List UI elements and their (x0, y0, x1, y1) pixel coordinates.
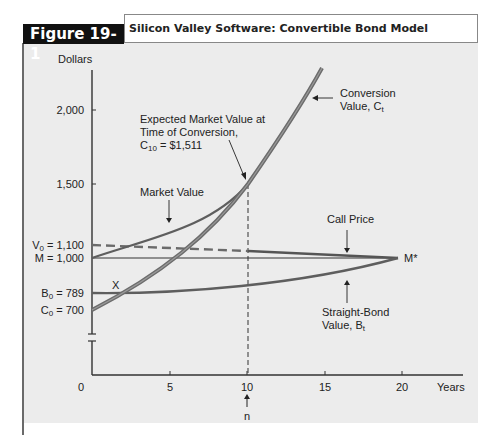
expected-label-line3: C10 = $1,511 (140, 139, 202, 153)
market-value-arrow-icon (166, 200, 172, 223)
y-label-m: M = 1,000 (35, 252, 84, 264)
y-tick-1500: 1,500 (56, 178, 84, 190)
market-value-label: Market Value (140, 186, 204, 198)
x-tick-0: 0 (78, 381, 84, 393)
x-tick-10: 10 (241, 381, 253, 393)
straight-bond-line (92, 258, 398, 293)
axis-break-icon (88, 334, 96, 341)
straight-bond-arrow-icon (344, 280, 350, 303)
conversion-label-line1: Conversion (340, 87, 396, 99)
n-label: n (244, 410, 250, 422)
convertible-bond-chart: Dollars Years 2,000 1,500 V0 = 1,100 M =… (0, 0, 493, 445)
conversion-arrow-icon (312, 95, 333, 101)
call-price-arrow-icon (344, 230, 350, 253)
y-axis-title: Dollars (58, 53, 93, 65)
y-label-b0: B0 = 789 (41, 287, 84, 301)
conversion-label-line2: Value, Ct (340, 100, 384, 114)
x-tick-20: 20 (396, 381, 408, 393)
y-tick-2000: 2,000 (56, 104, 84, 116)
y-label-c0: C0 = 700 (41, 304, 84, 318)
expected-label-line2: Time of Conversion, (140, 126, 238, 138)
x-tick-15: 15 (319, 381, 331, 393)
x-axis-title: Years (437, 381, 465, 393)
call-price-label: Call Price (327, 213, 374, 225)
n-arrow-icon (244, 394, 250, 407)
straight-bond-label-line1: Straight-Bond (322, 306, 389, 318)
straight-bond-label-line2: Value, Bt (322, 319, 366, 333)
expected-label-line1: Expected Market Value at (140, 113, 265, 125)
conversion-value-line (92, 68, 322, 310)
m-star-label: M* (404, 252, 418, 264)
x-point-label: X (112, 279, 120, 291)
x-tick-5: 5 (167, 381, 173, 393)
expected-arrow-icon (229, 140, 246, 180)
call-price-line (248, 251, 398, 258)
y-label-v0: V0 = 1,100 (32, 239, 84, 253)
